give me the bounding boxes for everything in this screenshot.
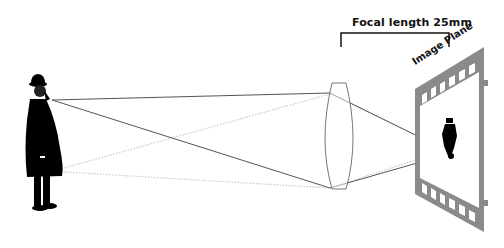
lens [325, 83, 353, 189]
solid-rays [52, 93, 452, 188]
dotted-rays [64, 94, 452, 188]
diagram-canvas: Focal length 25mm Image Plane [0, 0, 504, 248]
man-figure-icon [26, 74, 63, 211]
focal-length-label: Focal length 25mm [352, 16, 472, 29]
